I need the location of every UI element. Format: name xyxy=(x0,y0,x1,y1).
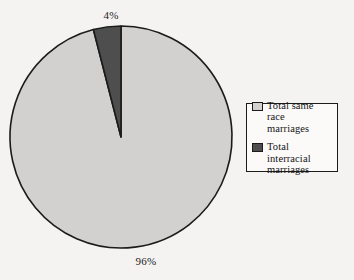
legend-label-same-race-line1: Total same race xyxy=(267,100,314,123)
legend-label-same-race: Total same race marriages xyxy=(267,100,333,135)
legend-label-same-race-line2: marriages xyxy=(267,123,309,134)
pie-chart-figure: 4% 96% Total same race marriages Total i… xyxy=(0,0,354,280)
data-label-large-slice: 96% xyxy=(126,255,166,267)
legend-label-interracial-line1: Total interracial xyxy=(267,141,311,164)
legend-swatch-interracial xyxy=(252,143,263,152)
data-label-small-slice: 4% xyxy=(93,9,129,21)
chart-legend: Total same race marriages Total interrac… xyxy=(246,103,338,172)
legend-item-interracial[interactable]: Total interracial marriages xyxy=(252,141,333,176)
legend-label-interracial: Total interracial marriages xyxy=(267,141,333,176)
legend-swatch-same-race xyxy=(252,102,263,111)
legend-item-same-race[interactable]: Total same race marriages xyxy=(252,100,333,135)
legend-label-interracial-line2: marriages xyxy=(267,164,309,175)
